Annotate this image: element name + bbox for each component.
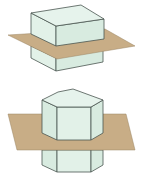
figure-hexagonal-prism — [8, 89, 135, 172]
hex-top-face — [42, 89, 103, 107]
hex-upper-front-face — [57, 107, 91, 140]
diagram-canvas — [0, 0, 143, 191]
hex-lower-left-face — [42, 150, 57, 172]
figure-rectangular-prism — [8, 5, 135, 71]
hex-lower-front-face — [57, 150, 91, 172]
hex-lower-right-face — [91, 150, 103, 172]
